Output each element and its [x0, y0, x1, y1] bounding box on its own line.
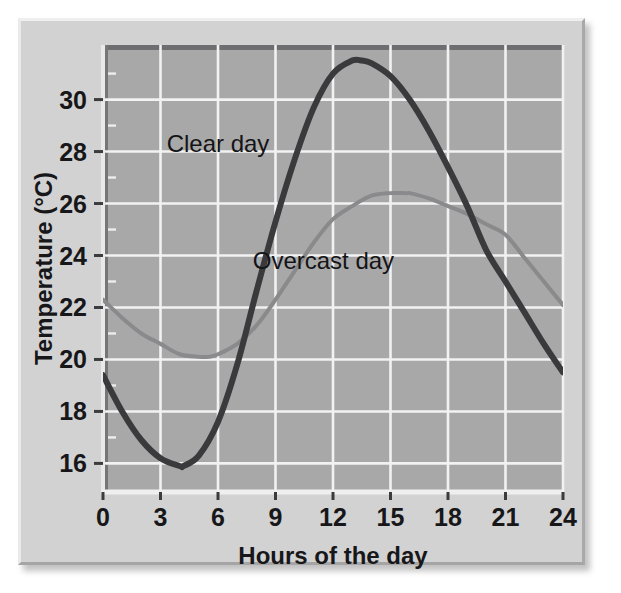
series-annotation-clear-day: Clear day: [167, 130, 270, 157]
x-tick-label-9: 9: [269, 503, 283, 531]
x-tick-label-24: 24: [549, 503, 577, 531]
series-annotation-overcast-day: Overcast day: [253, 247, 394, 274]
y-tick-label-28: 28: [59, 138, 87, 166]
y-tick-label-16: 16: [59, 449, 87, 477]
x-axis-title: Hours of the day: [238, 542, 428, 569]
y-axis-title: Temperature (°C): [30, 172, 57, 365]
x-tick-label-6: 6: [211, 503, 225, 531]
y-tick-label-20: 20: [59, 345, 87, 373]
x-tick-label-15: 15: [377, 503, 405, 531]
y-tick-label-24: 24: [59, 242, 87, 270]
y-tick-label-30: 30: [59, 86, 87, 114]
x-tick-label-0: 0: [96, 503, 110, 531]
x-tick-label-12: 12: [319, 503, 347, 531]
temperature-line-chart: 161820222426283003691215182124Clear dayO…: [0, 0, 621, 593]
x-tick-label-3: 3: [154, 503, 168, 531]
y-tick-label-18: 18: [59, 397, 87, 425]
chart-svg: 161820222426283003691215182124Clear dayO…: [0, 0, 621, 593]
y-tick-label-26: 26: [59, 190, 87, 218]
y-tick-label-22: 22: [59, 293, 87, 321]
x-tick-label-18: 18: [434, 503, 462, 531]
x-tick-label-21: 21: [492, 503, 520, 531]
